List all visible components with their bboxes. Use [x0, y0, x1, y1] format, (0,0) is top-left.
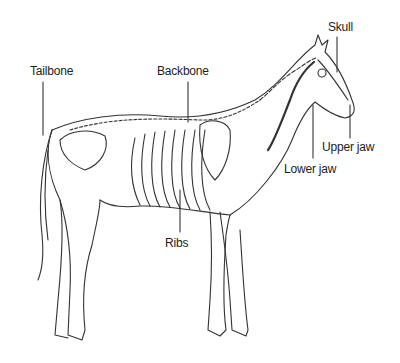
horse-skeleton-illustration	[0, 0, 400, 363]
label-upper-jaw: Upper jaw	[322, 140, 374, 154]
label-tailbone: Tailbone	[30, 64, 73, 78]
label-backbone: Backbone	[157, 64, 209, 78]
label-lower-jaw: Lower jaw	[284, 162, 336, 176]
label-ribs: Ribs	[165, 236, 188, 250]
label-skull: Skull	[328, 20, 353, 34]
horse-skeleton-diagram: Tailbone Backbone Skull Upper jaw Lower …	[0, 0, 400, 363]
